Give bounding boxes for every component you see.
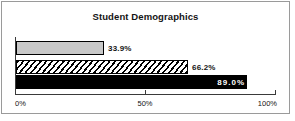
bar-series-1[interactable] xyxy=(16,41,104,55)
x-axis-label-100: 100% xyxy=(258,99,277,108)
bar-series-3[interactable] xyxy=(16,75,247,89)
chart-frame: Student Demographics 33.9% 66.2% 89.0% 0… xyxy=(1,1,290,114)
x-axis-tick-0 xyxy=(15,90,16,95)
plot-area: 33.9% 66.2% 89.0% xyxy=(15,37,276,95)
bar-value-label-3: 89.0% xyxy=(217,78,245,87)
bar-value-label-2: 66.2% xyxy=(192,63,216,72)
bar-value-label-1: 33.9% xyxy=(108,44,132,53)
chart-title: Student Demographics xyxy=(2,11,289,22)
x-axis-tick-50 xyxy=(145,90,146,95)
bar-series-2[interactable] xyxy=(16,60,188,74)
x-axis-tick-100 xyxy=(275,90,276,95)
x-axis-label-0: 0% xyxy=(15,99,26,108)
x-axis-label-50: 50% xyxy=(137,99,152,108)
